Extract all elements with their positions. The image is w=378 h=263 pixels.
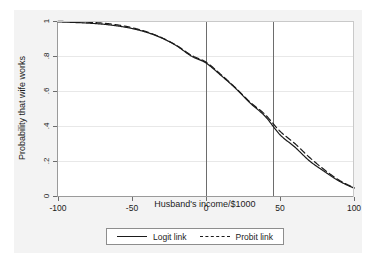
chart-legend: Logit link Probit link [106,228,284,245]
plot-area: 1 .8 .6 .4 .2 0 -100 -50 0 50 100 [57,21,354,197]
y-tick-label-1: 1 [42,19,51,23]
legend-entry-probit: Probit link [200,232,273,242]
chart-figure: 1 .8 .6 .4 .2 0 -100 -50 0 50 100 Probab… [0,0,378,263]
y-tick-label-0: 0 [42,194,51,198]
y-tick-08 [53,56,57,57]
legend-swatch-dashed-icon [200,236,230,237]
plot-frame-top [57,21,354,22]
series-logit-link [58,22,354,188]
x-tick-100 [354,197,355,201]
y-tick-label-04: .4 [42,123,51,130]
plot-frame-right [353,21,354,197]
data-curves [58,21,354,196]
y-tick-04 [53,126,57,127]
legend-swatch-solid-icon [117,236,147,237]
y-tick-06 [53,91,57,92]
x-axis-title: Husband's income/$1000 [57,199,353,209]
y-tick-label-06: .6 [42,88,51,95]
legend-label-probit: Probit link [236,232,273,242]
y-tick-label-08: .8 [42,53,51,60]
y-axis-title: Probability that wife works [17,56,27,160]
series-probit-link [58,21,354,187]
y-tick-label-02: .2 [42,158,51,165]
legend-label-logit: Logit link [153,232,187,242]
y-tick-0 [53,196,57,197]
legend-entry-logit: Logit link [117,232,187,242]
y-tick-02 [53,161,57,162]
